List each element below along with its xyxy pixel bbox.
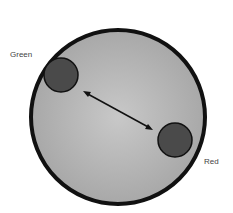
green-colony (44, 58, 78, 92)
red-colony (158, 123, 192, 157)
green-label: Green (10, 50, 32, 59)
red-label: Red (204, 157, 219, 166)
diagram (0, 0, 233, 213)
petri-dish (31, 30, 205, 204)
